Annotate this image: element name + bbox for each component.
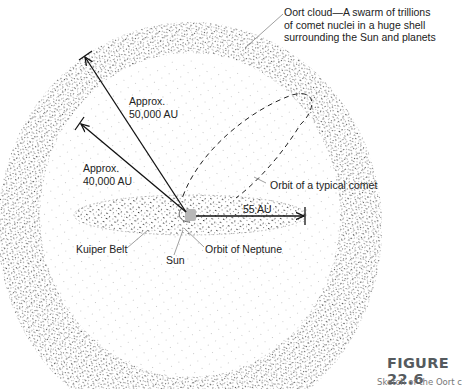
oort-cloud-diagram [0,0,462,389]
au-55-label: 55 AU [243,203,272,216]
sun [185,209,196,221]
oort-cloud-shell [0,0,462,389]
approx-40000-label: Approx. 40,000 AU [83,162,132,187]
neptune-orbit-label: Orbit of Neptune [205,243,282,256]
approx-50000-label: Approx. 50,000 AU [129,95,178,120]
sun-label: Sun [166,254,185,267]
kuiper-belt-label: Kuiper Belt [76,243,127,256]
comet-orbit-label: Orbit of a typical comet [270,179,377,192]
figure-caption: Sketch of the Oort c [377,377,462,387]
oort-cloud-label: Oort cloud—A swarm of trillions of comet… [284,6,436,44]
